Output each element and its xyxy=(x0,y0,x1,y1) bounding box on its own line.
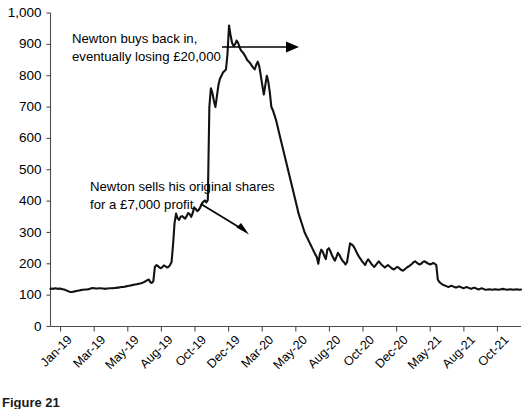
y-tick-label: 500 xyxy=(19,162,42,177)
figure-caption-text: Figure 21 xyxy=(2,395,60,409)
y-tick-label: 200 xyxy=(19,256,42,271)
y-tick-label: 1,000 xyxy=(8,5,42,20)
y-tick-label: 700 xyxy=(19,99,42,114)
y-tick-label: 600 xyxy=(19,130,42,145)
y-tick-label: 0 xyxy=(34,319,42,334)
y-tick-label: 100 xyxy=(19,287,42,302)
annotation-sells-shares-line2: for a £7,000 profit xyxy=(90,197,194,212)
y-tick-label: 300 xyxy=(19,225,42,240)
annotation-buys-back-in-line2: eventually losing £20,000 xyxy=(72,49,221,64)
annotation-sells-shares-line1: Newton sells his original shares xyxy=(90,179,275,194)
y-tick-label: 400 xyxy=(19,193,42,208)
annotation-buys-back-in-line1: Newton buys back in, xyxy=(72,31,197,46)
share-price-line-chart: 01002003004005006007008009001,000 Jan-19… xyxy=(0,0,529,409)
y-tick-label: 900 xyxy=(19,36,42,51)
chart-container: 01002003004005006007008009001,000 Jan-19… xyxy=(0,0,529,409)
figure-caption: Figure 21 xyxy=(2,395,60,409)
y-tick-label: 800 xyxy=(19,68,42,83)
